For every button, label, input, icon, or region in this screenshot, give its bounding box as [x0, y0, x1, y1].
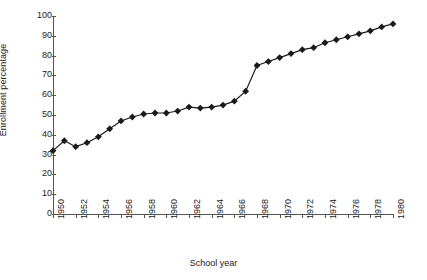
data-point-marker: [152, 110, 159, 117]
plot-area: [0, 0, 427, 280]
data-point-marker: [265, 58, 272, 65]
data-point-marker: [72, 143, 79, 150]
y-tick-mark: [52, 174, 56, 175]
data-point-marker: [333, 36, 340, 43]
data-point-marker: [299, 46, 306, 53]
data-point-marker: [84, 139, 91, 146]
data-point-marker: [140, 111, 147, 118]
y-tick-mark: [52, 135, 56, 136]
data-point-marker: [254, 62, 261, 69]
y-tick-mark: [52, 155, 56, 156]
data-point-marker: [322, 39, 329, 46]
data-point-marker: [129, 114, 136, 121]
data-point-marker: [163, 110, 170, 117]
data-point-marker: [174, 108, 181, 115]
data-point-marker: [390, 21, 397, 28]
y-tick-mark: [52, 95, 56, 96]
data-point-marker: [208, 104, 215, 111]
y-tick-mark: [52, 214, 56, 215]
data-point-marker: [344, 33, 351, 40]
data-point-marker: [378, 23, 385, 30]
data-point-marker: [220, 102, 227, 109]
x-axis-title: School year: [0, 258, 427, 268]
data-point-marker: [310, 44, 317, 51]
data-point-marker: [197, 105, 204, 112]
y-tick-mark: [52, 194, 56, 195]
data-point-marker: [288, 50, 295, 57]
data-line: [53, 24, 393, 151]
data-point-marker: [276, 54, 283, 61]
y-tick-mark: [52, 75, 56, 76]
y-tick-mark: [52, 56, 56, 57]
data-point-marker: [186, 104, 193, 111]
enrollment-line-chart: Enrollment percentage 010203040506070809…: [0, 0, 427, 280]
data-point-marker: [356, 30, 363, 37]
data-point-marker: [367, 27, 374, 34]
y-tick-mark: [52, 36, 56, 37]
y-tick-mark: [52, 115, 56, 116]
y-tick-mark: [52, 16, 56, 17]
